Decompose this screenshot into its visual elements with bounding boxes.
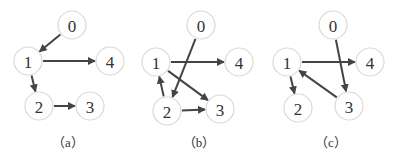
edge-1-to-2: [290, 77, 294, 94]
node-0: 0: [319, 11, 347, 39]
node-label: 4: [366, 54, 375, 73]
node-3: 3: [76, 92, 104, 120]
graph-caption: （b）: [183, 135, 216, 150]
node-1: 1: [14, 47, 42, 75]
node-2: 2: [153, 97, 181, 125]
node-3: 3: [206, 95, 234, 123]
node-label: 1: [152, 54, 161, 73]
node-label: 2: [294, 100, 303, 119]
node-4: 4: [96, 47, 124, 75]
node-label: 3: [216, 101, 225, 120]
edge-1-to-2: [32, 76, 36, 92]
node-1: 1: [142, 48, 170, 76]
node-2: 2: [284, 94, 312, 122]
graph-figure: 01423（a） 01423（b） 01423（c）: [0, 0, 402, 164]
graph-b: 01423（b）: [142, 11, 253, 150]
node-3: 3: [335, 92, 363, 120]
node-1: 1: [273, 48, 301, 76]
node-0: 0: [58, 11, 86, 39]
node-label: 3: [345, 98, 354, 117]
node-label: 0: [329, 17, 338, 36]
node-label: 4: [235, 54, 244, 73]
node-4: 4: [225, 48, 253, 76]
node-2: 2: [25, 92, 53, 120]
graph-caption: （c）: [315, 135, 347, 150]
edge-2-to-3: [182, 110, 205, 111]
node-label: 0: [197, 17, 206, 36]
graph-caption: （a）: [52, 135, 84, 150]
node-label: 1: [283, 54, 292, 73]
graph-c: 01423（c）: [273, 11, 384, 150]
edge-0-to-3: [336, 40, 346, 92]
node-0: 0: [187, 11, 215, 39]
edge-0-to-1: [40, 34, 61, 51]
edge-2-to-1: [159, 77, 163, 97]
graph-a: 01423（a）: [14, 11, 124, 150]
node-label: 3: [86, 98, 95, 117]
node-label: 1: [24, 53, 33, 72]
node-4: 4: [356, 48, 384, 76]
node-label: 0: [68, 17, 77, 36]
node-label: 4: [106, 53, 115, 72]
node-label: 2: [35, 98, 44, 117]
node-label: 2: [163, 103, 172, 122]
edge-3-to-1: [299, 71, 337, 98]
